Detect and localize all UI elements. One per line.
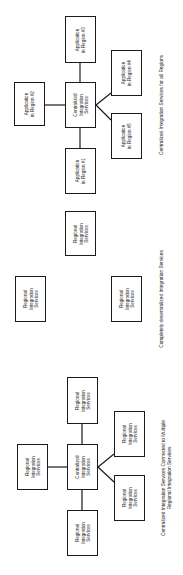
centralized-integration-services-box: Centralized Integration Services — [65, 82, 96, 128]
regional-integration-services-box: Regional Integration Services — [114, 475, 145, 521]
box-label: Regional Integration Services — [72, 223, 89, 245]
regional-integration-services-box: Regional Integration Services — [17, 444, 48, 490]
box-label: Regional Integration Services — [24, 456, 41, 478]
box-label: Regional Integration Services — [121, 423, 138, 445]
centralized-integration-services-box: Centralized Integration Services — [67, 444, 98, 490]
regional-integration-services-box: Regional Integration Services — [111, 276, 142, 322]
box-label: Regional Integration Services — [118, 288, 135, 310]
application-region-5-box: Application in Region #5 — [111, 113, 142, 159]
caption-centralized-all-regions: Centralized Integration Services for all… — [159, 35, 165, 175]
regional-integration-services-box: Regional Integration Services — [67, 510, 98, 556]
box-label: Regional Integration Services — [74, 522, 91, 544]
box-label: Application in Region #1 — [75, 158, 86, 184]
box-label: Centralized Integration Services — [72, 93, 89, 116]
application-region-4-box: Application in Region #4 — [111, 50, 142, 96]
box-label: Regional Integration Services — [121, 487, 138, 509]
regional-integration-services-box: Regional Integration Services — [67, 377, 98, 424]
regional-integration-services-box: Regional Integration Services — [65, 211, 96, 256]
caption-centralized-multiple-regional: Centralized Integration Services Connect… — [161, 410, 173, 546]
box-label: Application in Region #3 — [75, 27, 86, 53]
box-label: Application in Region #4 — [121, 60, 132, 86]
box-label: Regional Integration Services — [22, 288, 39, 310]
box-label: Regional Integration Services — [74, 390, 91, 412]
regional-integration-services-box: Regional Integration Services — [114, 411, 145, 457]
caption-decentralized: Completely decentralized Integration Ser… — [159, 232, 165, 366]
application-region-2-box: Application in Region #2 — [14, 82, 45, 126]
application-region-1-box: Application in Region #1 — [65, 148, 96, 194]
box-label: Application in Region #5 — [121, 123, 132, 149]
application-region-3-box: Application in Region #3 — [65, 16, 96, 63]
regional-integration-services-box: Regional Integration Services — [15, 276, 46, 322]
box-label: Centralized Integration Services — [74, 455, 91, 478]
box-label: Application in Region #2 — [24, 91, 35, 117]
